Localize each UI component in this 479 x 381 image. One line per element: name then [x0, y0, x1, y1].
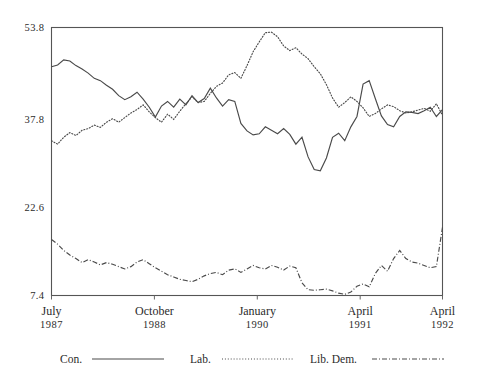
x-axis-tick-labels: July1987October1988January1990April1991A… [40, 304, 456, 330]
y-tick-label: 53.8 [25, 22, 45, 33]
series-line-con [52, 60, 443, 171]
line-chart: 53.837.822.67.4 July1987October1988Janua… [0, 0, 479, 381]
x-tick-sublabel: 1990 [246, 319, 269, 330]
x-tick-label: April [430, 304, 456, 318]
y-tick-label: 7.4 [30, 290, 45, 301]
x-tick-sublabel: 1987 [40, 319, 63, 330]
chart-page: 53.837.822.67.4 July1987October1988Janua… [0, 0, 479, 381]
x-axis-ticks [52, 296, 443, 300]
y-tick-label: 37.8 [25, 114, 45, 125]
y-axis-tick-labels: 53.837.822.67.4 [25, 22, 45, 301]
x-tick-sublabel: 1988 [143, 319, 166, 330]
chart-legend: Con.Lab.Lib. Dem. [60, 353, 444, 365]
x-tick-sublabel: 1991 [349, 319, 372, 330]
x-tick-label: October [135, 304, 174, 318]
series-line-lib-dem [52, 227, 443, 294]
legend-label: Lab. [190, 353, 211, 365]
x-tick-sublabel: 1992 [431, 319, 454, 330]
x-tick-label: January [239, 304, 276, 318]
legend-label: Lib. Dem. [310, 353, 357, 365]
x-tick-label: April [348, 304, 374, 318]
legend-label: Con. [60, 353, 82, 365]
plot-frame [52, 28, 443, 296]
data-series-group [52, 32, 443, 294]
x-tick-label: July [41, 304, 61, 318]
y-tick-label: 22.6 [25, 202, 45, 213]
